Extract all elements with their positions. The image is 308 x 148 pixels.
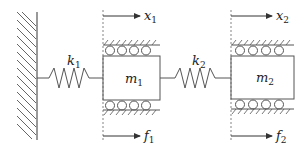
spring-k1: k1 bbox=[37, 53, 103, 88]
label-x1: x1 bbox=[144, 8, 157, 25]
rollers-bottom-m1 bbox=[106, 101, 151, 110]
rollers-bottom-m2 bbox=[236, 100, 284, 109]
label-k1: k1 bbox=[67, 53, 81, 70]
rollers-top-m1 bbox=[106, 46, 151, 55]
rollers-top-m2 bbox=[236, 46, 284, 55]
label-k2: k2 bbox=[192, 53, 206, 70]
spring-mass-diagram: k1 m1 x1 f1 k2 bbox=[0, 0, 308, 148]
fixed-wall bbox=[17, 12, 37, 140]
spring-k2: k2 bbox=[160, 53, 231, 88]
label-x2: x2 bbox=[276, 8, 289, 25]
label-f1: f1 bbox=[143, 128, 155, 145]
mass-m1-assembly: m1 x1 f1 bbox=[103, 8, 160, 145]
label-f2: f2 bbox=[275, 128, 287, 145]
mass-m2-assembly: m2 x2 f2 bbox=[231, 8, 294, 145]
